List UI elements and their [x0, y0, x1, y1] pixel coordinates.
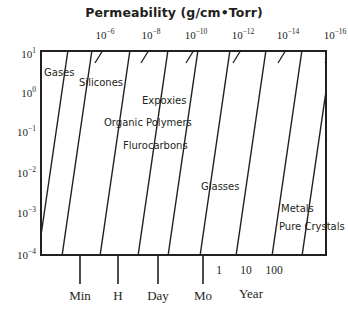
permeability-chart: Permeability (g/cm•Torr) 10−610−810−1010…	[0, 0, 348, 321]
band-label: Gases	[44, 67, 74, 78]
top-axis-tick-label: 10−16	[324, 27, 347, 41]
year-number-label: 1	[216, 264, 222, 276]
y-axis-tick-label: 101	[2, 46, 36, 60]
bottom-axis-tick-label: Mo	[194, 288, 212, 304]
y-axis-tick-label: 100	[2, 85, 36, 99]
top-axis-tick	[325, 50, 327, 63]
band-label: Glasses	[201, 181, 239, 192]
bottom-axis-tick-label: H	[113, 288, 122, 304]
band-label: Silicones	[79, 77, 123, 88]
top-axis-tick	[141, 50, 149, 63]
top-axis-tick-label: 10−14	[277, 27, 300, 41]
band-boundary-line	[236, 50, 266, 256]
band-boundary-line	[40, 50, 68, 256]
bottom-axis-tick-label: Min	[69, 288, 91, 304]
year-axis-label: Year	[239, 286, 263, 302]
top-axis-tick-label: 10−8	[142, 27, 161, 41]
band-label: Metals	[281, 203, 314, 214]
band-label: Flurocarbons	[123, 140, 188, 151]
top-axis-tick	[233, 50, 241, 63]
bottom-axis	[40, 256, 327, 288]
top-axis-tick-label: 10−10	[185, 27, 208, 41]
band-boundary-line	[138, 50, 168, 256]
band-label: Organic Polymers	[104, 117, 192, 128]
band-label: Expoxies	[142, 95, 186, 106]
year-number-label: 10	[240, 264, 252, 276]
top-axis-tick	[95, 50, 103, 63]
top-axis-tick-label: 10−6	[96, 27, 115, 41]
chart-title: Permeability (g/cm•Torr)	[0, 5, 348, 20]
y-axis-tick-label: 10−2	[2, 165, 36, 179]
year-number-label: 100	[265, 264, 282, 276]
bottom-axis-ticks	[80, 256, 203, 284]
top-axis-tick	[278, 50, 286, 63]
band-boundary-line	[168, 50, 198, 256]
y-axis-tick-label: 10−1	[2, 124, 36, 138]
top-axis-tick-label: 10−12	[232, 27, 255, 41]
band-label: Pure Crystals	[279, 221, 345, 232]
top-axis-tick	[186, 50, 194, 63]
bottom-axis-tick-label: Day	[147, 288, 169, 304]
y-axis-tick-label: 10−3	[2, 205, 36, 219]
y-axis-tick-label: 10−4	[2, 247, 36, 261]
band-boundary-line	[200, 50, 230, 256]
